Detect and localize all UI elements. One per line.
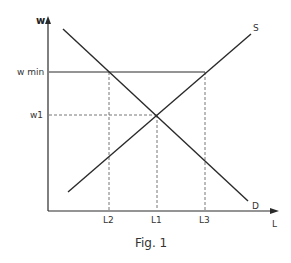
y-axis-arrow-icon: [45, 16, 51, 24]
labour-market-diagram: w L S D w min w1 L2 L1 L3 Fig. 1: [0, 0, 291, 263]
x-axis-label: L: [272, 219, 277, 229]
supply-curve: [68, 34, 251, 192]
w1-label: w1: [30, 110, 43, 120]
demand-label: D: [252, 201, 259, 211]
L2-label: L2: [103, 215, 114, 225]
L3-label: L3: [199, 215, 210, 225]
wmin-label: w min: [17, 67, 44, 77]
L1-label: L1: [151, 215, 162, 225]
figure-caption: Fig. 1: [135, 236, 167, 250]
x-axis-arrow-icon: [270, 208, 279, 214]
y-axis-label: w: [36, 15, 45, 26]
supply-label: S: [253, 23, 259, 33]
